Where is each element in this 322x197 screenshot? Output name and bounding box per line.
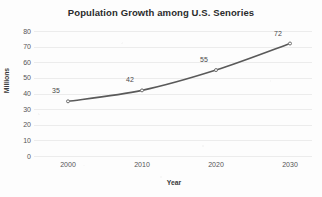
x-axis-title: Year <box>34 179 314 186</box>
y-tick-label: 40 <box>5 90 31 97</box>
data-point-label: 55 <box>189 56 219 63</box>
data-point-marker <box>67 100 70 103</box>
line-chart: Population Growth among U.S. Senories Mi… <box>0 0 322 197</box>
plot-area: 35425572 <box>34 31 312 156</box>
data-point-label: 35 <box>41 87 71 94</box>
x-tick-label: 2020 <box>196 161 236 168</box>
y-tick-label: 50 <box>5 74 31 81</box>
y-tick-label: 30 <box>5 106 31 113</box>
data-point-marker <box>289 42 292 45</box>
y-tick-label: 10 <box>5 137 31 144</box>
x-tick-label: 2030 <box>270 161 310 168</box>
y-tick-label: 80 <box>5 28 31 35</box>
data-point-label: 72 <box>263 30 293 37</box>
data-point-marker <box>215 69 218 72</box>
x-tick-label: 2000 <box>48 161 88 168</box>
chart-title: Population Growth among U.S. Senories <box>0 7 322 18</box>
data-point-marker <box>141 89 144 92</box>
data-point-label: 42 <box>115 76 145 83</box>
series-line <box>34 31 312 156</box>
y-tick-label: 20 <box>5 121 31 128</box>
y-tick-label: 60 <box>5 59 31 66</box>
gridline <box>34 156 312 157</box>
y-tick-label: 70 <box>5 43 31 50</box>
y-axis-tick-labels: 01020304050607080 <box>0 31 31 156</box>
x-axis-tick-labels: 2000201020202030 <box>34 161 312 173</box>
series-path <box>68 44 290 102</box>
y-tick-label: 0 <box>5 153 31 160</box>
x-tick-label: 2010 <box>122 161 162 168</box>
